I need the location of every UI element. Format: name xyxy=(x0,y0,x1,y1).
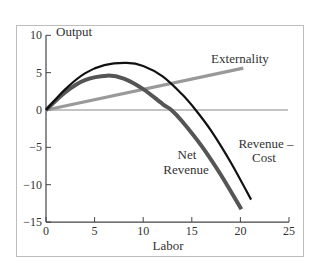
revenue-cost-label-line1: Revenue – xyxy=(238,136,294,151)
x-tick-label: 15 xyxy=(186,224,198,238)
y-tick-label: 10 xyxy=(30,28,42,42)
y-axis-title: Output xyxy=(56,24,93,39)
x-tick-label: 20 xyxy=(234,224,246,238)
externality-label: Externality xyxy=(211,51,269,66)
y-tick-label: −5 xyxy=(29,140,42,154)
net-revenue-curve xyxy=(46,76,241,210)
x-tick-label: 10 xyxy=(137,224,149,238)
x-tick-label: 25 xyxy=(283,224,295,238)
y-tick-label: 5 xyxy=(36,66,42,80)
revenue-cost-label-line2: Cost xyxy=(252,150,276,165)
y-tick-label: −10 xyxy=(23,178,42,192)
y-tick-label: −15 xyxy=(23,215,42,229)
net-revenue-label-line1: Net xyxy=(178,147,197,162)
x-axis-title: Labor xyxy=(152,238,184,253)
x-tick-label: 5 xyxy=(92,224,98,238)
y-tick-label: 0 xyxy=(36,103,42,117)
chart: 1050−5−10−150510152025 Output Labor Exte… xyxy=(0,0,317,270)
net-revenue-label-line2: Revenue xyxy=(163,162,209,177)
x-tick-label: 0 xyxy=(43,224,49,238)
